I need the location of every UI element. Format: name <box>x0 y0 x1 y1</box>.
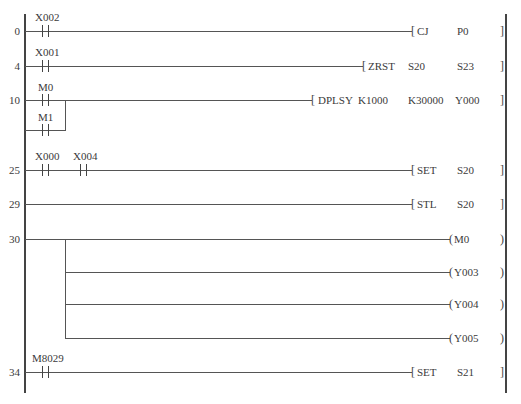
contact-label: X001 <box>35 46 59 58</box>
coil-close: ) <box>500 332 504 344</box>
instruction-op: CJ <box>417 25 429 37</box>
coil-open: ( <box>449 332 453 344</box>
contact-no-icon[interactable] <box>41 94 51 106</box>
contact-label: X004 <box>73 150 97 162</box>
rung-wire <box>25 239 450 240</box>
branch-wire <box>65 239 66 339</box>
close-bracket: ] <box>500 164 504 176</box>
branch-wire <box>65 100 66 131</box>
close-bracket: ] <box>500 60 504 72</box>
contact-label: M0 <box>38 81 53 93</box>
instruction-op: SET <box>417 366 437 378</box>
contact-no-icon[interactable] <box>79 164 89 176</box>
coil-label[interactable]: Y005 <box>454 332 478 344</box>
coil-label[interactable]: Y004 <box>454 298 478 310</box>
instruction-operand: S20 <box>457 164 474 176</box>
coil-close: ) <box>500 233 504 245</box>
step-number: 4 <box>0 60 20 72</box>
rung-wire <box>25 66 363 67</box>
contact-no-icon[interactable] <box>41 164 51 176</box>
open-bracket: [ <box>311 94 315 106</box>
contact-label: X002 <box>35 11 59 23</box>
rung-wire <box>25 100 312 101</box>
contact-no-icon[interactable] <box>41 366 51 378</box>
open-bracket: [ <box>411 366 415 378</box>
step-number: 10 <box>0 94 20 106</box>
close-bracket: ] <box>500 198 504 210</box>
coil-open: ( <box>449 266 453 278</box>
contact-no-icon[interactable] <box>41 60 51 72</box>
contact-label: M1 <box>38 111 53 123</box>
contact-label: X000 <box>35 150 59 162</box>
instruction-op: SET <box>417 164 437 176</box>
instruction-op: ZRST <box>368 60 395 72</box>
coil-open: ( <box>449 233 453 245</box>
instruction-operand: K30000 <box>408 94 443 106</box>
instruction-op: STL <box>417 198 437 210</box>
instruction-operand: S20 <box>408 60 425 72</box>
close-bracket: ] <box>500 94 504 106</box>
open-bracket: [ <box>411 164 415 176</box>
instruction-operand: S23 <box>457 60 474 72</box>
coil-label[interactable]: Y003 <box>454 266 478 278</box>
step-number: 29 <box>0 198 20 210</box>
rung-wire <box>25 31 412 32</box>
step-number: 25 <box>0 164 20 176</box>
open-bracket: [ <box>362 60 366 72</box>
open-bracket: [ <box>411 198 415 210</box>
instruction-op: DPLSY <box>318 94 353 106</box>
step-number: 34 <box>0 366 20 378</box>
branch-wire <box>65 338 450 339</box>
open-bracket: [ <box>411 25 415 37</box>
instruction-operand: S20 <box>457 198 474 210</box>
rung-wire <box>25 204 412 205</box>
instruction-operand: P0 <box>457 25 469 37</box>
instruction-operand: Y000 <box>455 94 479 106</box>
contact-no-icon[interactable] <box>41 124 51 136</box>
right-power-rail <box>505 14 507 393</box>
close-bracket: ] <box>500 25 504 37</box>
rung-wire <box>25 372 412 373</box>
coil-open: ( <box>449 298 453 310</box>
instruction-operand: K1000 <box>358 94 388 106</box>
instruction-operand: S21 <box>457 366 474 378</box>
coil-close: ) <box>500 298 504 310</box>
step-number: 30 <box>0 233 20 245</box>
coil-close: ) <box>500 266 504 278</box>
contact-no-icon[interactable] <box>41 25 51 37</box>
branch-wire <box>65 304 450 305</box>
close-bracket: ] <box>500 366 504 378</box>
contact-label: M8029 <box>32 352 64 364</box>
step-number: 0 <box>0 25 20 37</box>
coil-label[interactable]: M0 <box>454 233 469 245</box>
branch-wire <box>65 272 450 273</box>
